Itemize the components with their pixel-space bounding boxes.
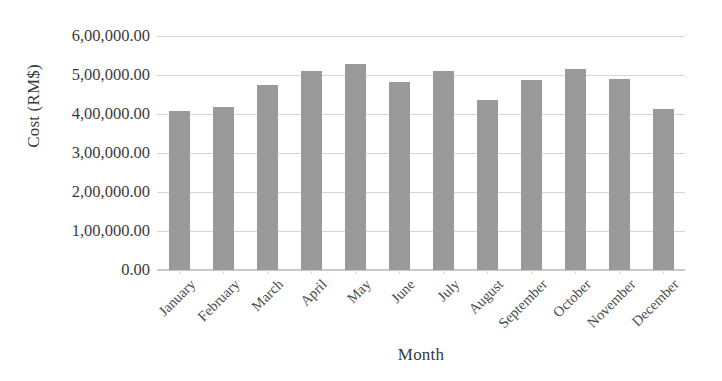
bar-slot (421, 36, 465, 270)
y-tick-label: 4,00,000.00 (46, 104, 150, 124)
x-tickmark (487, 270, 488, 274)
x-tickmark (531, 270, 532, 274)
x-tick-label-may: May (344, 276, 375, 307)
x-axis-title: Month (157, 345, 685, 365)
bar-november[interactable] (609, 79, 630, 270)
bar-september[interactable] (521, 80, 542, 270)
x-tick-label-january: January (155, 276, 199, 320)
bar-slot (509, 36, 553, 270)
x-tick-label-july: July (434, 276, 463, 305)
x-tick-label-february: February (194, 276, 243, 325)
x-tick-label-march: March (248, 276, 287, 315)
x-tick-label-june: June (388, 276, 419, 307)
y-axis-tick-labels: 0.001,00,000.002,00,000.003,00,000.004,0… (46, 0, 150, 381)
bar-january[interactable] (169, 111, 190, 270)
x-tick-label-december: December (629, 276, 683, 330)
bar-slot (377, 36, 421, 270)
bar-slot (553, 36, 597, 270)
bar-april[interactable] (301, 71, 322, 270)
x-tickmark (311, 270, 312, 274)
x-tickmark (575, 270, 576, 274)
x-tickmark (355, 270, 356, 274)
x-tickmark (223, 270, 224, 274)
x-tickmark (179, 270, 180, 274)
bar-june[interactable] (389, 82, 410, 270)
x-tickmark (399, 270, 400, 274)
bar-slot (245, 36, 289, 270)
bar-chart: Cost (RM$) 0.001,00,000.002,00,000.003,0… (0, 0, 722, 381)
bars-group (157, 36, 685, 270)
x-axis-tick-labels: JanuaryFebruaryMarchAprilMayJuneJulyAugu… (157, 270, 685, 350)
x-tickmark (663, 270, 664, 274)
y-tick-label: 1,00,000.00 (46, 221, 150, 241)
y-tick-label: 2,00,000.00 (46, 182, 150, 202)
bar-slot (201, 36, 245, 270)
x-tickmark (443, 270, 444, 274)
y-tick-label: 0.00 (46, 260, 150, 280)
bar-slot (289, 36, 333, 270)
x-tickmark (619, 270, 620, 274)
bar-october[interactable] (565, 69, 586, 270)
bar-slot (333, 36, 377, 270)
x-tick-label-april: April (297, 276, 331, 310)
plot-area (157, 36, 685, 270)
y-axis-title: Cost (RM$) (24, 26, 44, 186)
x-tick-label-august: August (465, 276, 507, 318)
bar-may[interactable] (345, 64, 366, 270)
bar-august[interactable] (477, 100, 498, 270)
bar-slot (641, 36, 685, 270)
y-tick-label: 6,00,000.00 (46, 26, 150, 46)
bar-december[interactable] (653, 109, 674, 270)
bar-slot (465, 36, 509, 270)
x-tickmark (267, 270, 268, 274)
y-tick-label: 3,00,000.00 (46, 143, 150, 163)
bar-slot (157, 36, 201, 270)
y-tick-label: 5,00,000.00 (46, 65, 150, 85)
bar-march[interactable] (257, 85, 278, 270)
bar-february[interactable] (213, 107, 234, 270)
bar-slot (597, 36, 641, 270)
bar-july[interactable] (433, 71, 454, 270)
